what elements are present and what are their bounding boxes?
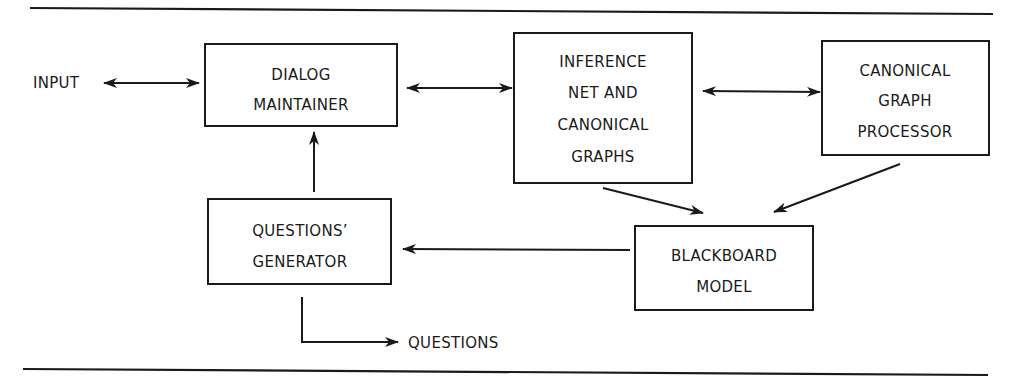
edge-qgen-questions [302,297,398,342]
diagram-canvas: INPUT DIALOG MAINTAINER INFERENCE NET AN… [0,0,1026,386]
input-label: INPUT [33,74,80,92]
node-label-line: CANONICAL [557,116,649,134]
node-label-line: DIALOG [271,66,330,84]
edge-cgp-blackboard [774,164,900,212]
node-label-line: GRAPH [878,92,932,110]
node-blackboard-model: BLACKBOARD MODEL [635,226,813,310]
bottom-rule [23,369,988,375]
node-label-line: MODEL [696,278,752,296]
node-label-line: PROCESSOR [857,123,952,141]
node-label-line: GRAPHS [571,148,634,166]
node-label-line: CANONICAL [859,62,951,80]
node-inference-net: INFERENCE NET AND CANONICAL GRAPHS [514,33,692,183]
node-label-line: INFERENCE [559,53,647,71]
top-rule [30,8,993,14]
edge-inference-blackboard [603,188,703,213]
node-label-line: BLACKBOARD [671,247,777,265]
node-label-line: MAINTAINER [253,96,349,114]
node-label-line: GENERATOR [253,253,348,271]
questions-label: QUESTIONS [408,334,499,352]
edge-inference-cgp [703,91,820,92]
node-label-line: NET AND [568,84,638,102]
node-questions-generator: QUESTIONS’ GENERATOR [208,199,391,284]
node-canonical-graph-processor: CANONICAL GRAPH PROCESSOR [822,41,989,155]
node-dialog-maintainer: DIALOG MAINTAINER [205,44,397,126]
edge-blackboard-qgen [403,249,630,250]
node-label-line: QUESTIONS’ [252,222,348,240]
